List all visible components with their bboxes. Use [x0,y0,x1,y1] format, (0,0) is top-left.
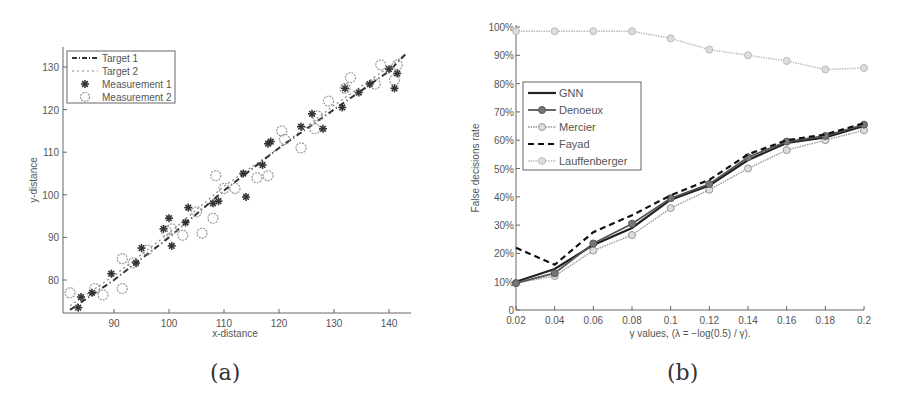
legend-label-b: Mercier [559,121,596,133]
x-tick-label-b: 0.14 [738,315,758,326]
y-tick-label-a: 130 [42,62,59,73]
data-marker [667,35,674,42]
legend-label-b: Lauffenberger [559,155,628,167]
legend-label-a: Target 2 [102,66,139,77]
data-marker [551,28,558,35]
y-axis-label-b: False decisions rate [470,123,481,212]
x-tick-label-a: 120 [271,318,288,329]
legend-marker-b [539,107,546,114]
y-tick-label-a: 120 [42,105,59,116]
data-marker [629,28,636,35]
data-marker [629,232,636,239]
y-tick-label-b: 100% [488,22,514,33]
y-tick-label-b: 20% [494,248,514,259]
line-chart-b: 0.020.040.060.080.10.120.140.160.180.201… [449,0,898,406]
y-tick-label-a: 80 [48,275,60,286]
y-tick-label-b: 50% [494,164,514,175]
y-tick-label-b: 10% [494,277,514,288]
x-tick-label-b: 0.18 [816,315,836,326]
legend-label-b: Denoeux [559,104,604,116]
series-lauffenberger [513,28,868,73]
legend-marker-b [539,124,546,131]
data-marker [513,280,520,287]
data-marker [551,270,558,277]
y-tick-label-b: 30% [494,220,514,231]
x-tick-label-a: 90 [108,318,120,329]
y-tick-label-b: 90% [494,50,514,61]
x-tick-label-b: 0.12 [700,315,720,326]
scatter-chart-a: 901001101201301408090100110120130x-dista… [0,0,449,406]
data-marker [706,46,713,53]
y-tick-label-b: 70% [494,107,514,118]
y-axis-label-a: y-distance [28,157,39,203]
data-marker [629,220,636,227]
legend-marker-b [539,158,546,165]
legend-label-b: Fayad [559,138,590,150]
data-marker [590,240,597,247]
data-marker [706,181,713,188]
data-marker [667,205,674,212]
x-tick-label-b: 0.16 [777,315,797,326]
x-tick-label-b: 0.02 [506,315,526,326]
y-tick-label-a: 90 [48,232,60,243]
y-tick-label-b: 40% [494,192,514,203]
data-marker [861,65,868,72]
y-tick-label-b: 0 [508,305,514,316]
legend-a: Target 1Target 2Measurement 1Measurement… [67,51,175,103]
legend-label-a: Target 1 [102,53,139,64]
y-tick-label-b: 80% [494,79,514,90]
caption-b: (b) [667,360,698,385]
chart-b-panel: 0.020.040.060.080.10.120.140.160.180.201… [449,0,898,406]
legend-label-a: Measurement 1 [102,79,172,90]
x-tick-label-b: 0.08 [622,315,642,326]
data-marker [822,66,829,73]
data-marker [783,57,790,64]
data-marker [783,147,790,154]
data-marker [590,247,597,254]
x-tick-label-a: 100 [161,318,178,329]
y-tick-label-b: 60% [494,135,514,146]
x-tick-label-b: 0.2 [857,315,871,326]
chart-a-panel: 901001101201301408090100110120130x-dista… [0,0,449,406]
x-tick-label-b: 0.04 [545,315,565,326]
series-line [516,31,864,69]
legend-label-a: Measurement 2 [102,92,172,103]
y-tick-label-a: 110 [43,147,59,158]
legend-label-b: GNN [559,87,584,99]
y-tick-label-a: 100 [42,190,59,201]
data-marker [745,52,752,59]
caption-a: (a) [210,360,240,385]
data-marker [513,28,520,35]
x-axis-label-b: γ values, (λ = −log(0.5) / γ). [629,328,750,339]
legend-b: GNNDenoeuxMercierFayadLauffenberger [523,82,641,170]
data-marker [667,195,674,202]
x-tick-label-a: 140 [381,318,398,329]
x-tick-label-b: 0.1 [664,315,678,326]
data-marker [590,28,597,35]
x-tick-label-a: 130 [326,318,343,329]
x-tick-label-b: 0.06 [584,315,604,326]
x-axis-label-a: x-distance [212,328,258,339]
data-marker [745,165,752,172]
